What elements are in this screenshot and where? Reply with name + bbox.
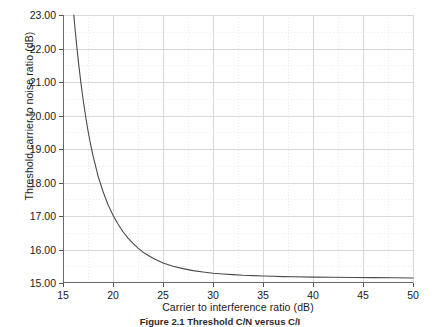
x-tick-label: 50 — [407, 289, 419, 301]
x-tick-label: 15 — [57, 289, 69, 301]
y-tick-mark — [59, 15, 63, 16]
series-layer — [63, 15, 413, 283]
x-tick-label: 30 — [207, 289, 219, 301]
y-tick-label: 15.00 — [30, 277, 56, 289]
y-tick-mark — [59, 149, 63, 150]
x-tick-label: 40 — [307, 289, 319, 301]
y-axis-line — [63, 15, 64, 283]
figure-caption: Figure 2.1 Threshold C/N versus C/I — [0, 316, 440, 327]
y-tick-label: 17.00 — [30, 210, 56, 222]
x-tick-label: 25 — [157, 289, 169, 301]
x-tick-mark — [363, 283, 364, 287]
x-tick-mark — [413, 283, 414, 287]
x-axis-title: Carrier to interference ratio (dB) — [63, 301, 413, 313]
x-axis-line — [63, 282, 413, 283]
y-tick-mark — [59, 82, 63, 83]
y-tick-label: 16.00 — [30, 244, 56, 256]
y-tick-label: 22.00 — [30, 43, 56, 55]
y-tick-mark — [59, 49, 63, 50]
y-tick-mark — [59, 183, 63, 184]
plot-area: 15.0016.0017.0018.0019.0020.0021.0022.00… — [63, 15, 413, 283]
y-tick-mark — [59, 216, 63, 217]
y-tick-label: 21.00 — [30, 76, 56, 88]
x-tick-label: 45 — [357, 289, 369, 301]
y-tick-label: 18.00 — [30, 177, 56, 189]
y-tick-label: 19.00 — [30, 143, 56, 155]
x-tick-mark — [313, 283, 314, 287]
x-tick-mark — [213, 283, 214, 287]
x-tick-mark — [63, 283, 64, 287]
x-tick-mark — [263, 283, 264, 287]
x-tick-label: 20 — [107, 289, 119, 301]
y-tick-label: 23.00 — [30, 9, 56, 21]
x-tick-mark — [163, 283, 164, 287]
x-tick-mark — [113, 283, 114, 287]
y-tick-label: 20.00 — [30, 110, 56, 122]
y-tick-mark — [59, 116, 63, 117]
x-tick-label: 35 — [257, 289, 269, 301]
y-tick-mark — [59, 250, 63, 251]
